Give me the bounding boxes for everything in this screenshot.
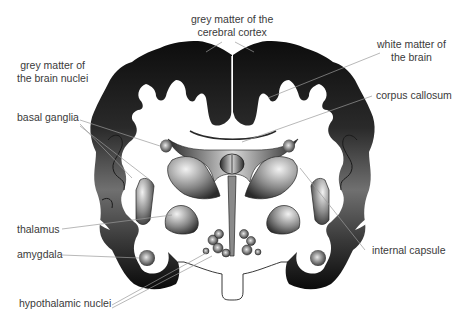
label-amygdala: amygdala — [17, 248, 63, 261]
label-line: the brain — [377, 51, 446, 64]
label-grey-matter-brain-nuclei: grey matter of the brain nuclei — [17, 59, 88, 84]
label-line: grey matter of the — [191, 13, 273, 26]
label-line: grey matter of — [17, 59, 88, 72]
midline-stalk — [228, 176, 236, 256]
label-line: cerebral cortex — [191, 26, 273, 39]
label-thalamus: thalamus — [17, 223, 60, 236]
amygdala-left — [139, 250, 155, 266]
caudate-nucleus-right — [283, 140, 295, 153]
label-corpus-callosum: corpus callosum — [376, 89, 452, 102]
thalamus-left — [165, 206, 198, 235]
label-white-matter: white matter of the brain — [377, 38, 446, 63]
label-basal-ganglia: basal ganglia — [17, 111, 79, 124]
amygdala-right — [310, 250, 326, 266]
corpus-callosum — [190, 131, 276, 139]
brain-base-outline — [178, 262, 288, 300]
thalamus-right — [267, 206, 300, 235]
label-line: the brain nuclei — [17, 72, 88, 85]
label-internal-capsule: internal capsule — [372, 244, 446, 257]
label-grey-matter-cerebral-cortex: grey matter of the cerebral cortex — [191, 13, 273, 38]
label-line: white matter of — [377, 38, 446, 51]
caudate-nucleus-left — [160, 140, 172, 153]
label-hypothalamic-nuclei: hypothalamic nuclei — [19, 297, 111, 310]
